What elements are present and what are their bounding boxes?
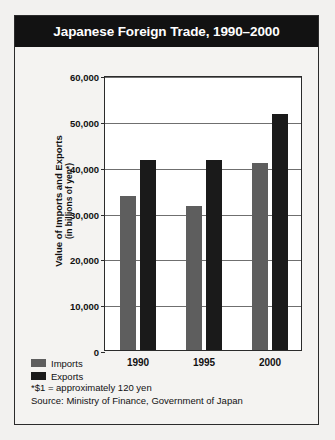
legend-item-exports: Exports [31,370,83,382]
y-axis-tick-label: 0 [94,347,99,358]
x-axis-tick-label-2000: 2000 [259,357,281,368]
bar-imports-1995 [186,206,202,350]
plot-area: 010,00020,00030,00040,00050,00060,000199… [104,76,302,351]
legend-swatch-exports [31,372,46,380]
y-axis-tick-mark [101,306,105,307]
y-axis-tick-label: 50,000 [70,117,99,128]
x-axis-tick-label-1995: 1995 [193,357,215,368]
legend: ImportsExports [31,357,83,383]
y-axis-tick-mark [101,215,105,216]
x-axis-tick-label-1990: 1990 [127,357,149,368]
gridline [105,77,301,78]
bar-imports-2000 [252,163,268,350]
y-axis-tick-label: 30,000 [70,209,99,220]
plot-area-wrapper: 010,00020,00030,00040,00050,00060,000199… [104,76,302,351]
y-axis-tick-label: 60,000 [70,72,99,83]
y-axis-tick-mark [101,260,105,261]
y-axis-tick-label: 40,000 [70,163,99,174]
bar-exports-1995 [206,160,222,350]
y-axis-tick-label: 10,000 [70,301,99,312]
source-note: Source: Ministry of Finance, Government … [31,395,306,408]
figure-canvas: Japanese Foreign Trade, 1990–2000 Value … [0,0,335,440]
y-axis-tick-mark [101,123,105,124]
legend-swatch-imports [31,359,46,367]
y-axis-tick-mark [101,169,105,170]
chart-card: Japanese Foreign Trade, 1990–2000 Value … [14,15,319,425]
legend-item-imports: Imports [31,357,83,369]
page-title: Japanese Foreign Trade, 1990–2000 [15,16,318,47]
bar-exports-1990 [140,160,156,350]
notes-block: *$1 = approximately 120 yen Source: Mini… [31,382,306,407]
y-axis-title: Value of Imports and Exports (in billion… [27,76,53,326]
bar-imports-1990 [120,196,136,350]
footnote: *$1 = approximately 120 yen [31,382,306,395]
bar-exports-2000 [272,114,288,350]
y-axis-tick-label: 20,000 [70,255,99,266]
legend-label-exports: Exports [51,371,83,382]
y-axis-tick-mark [101,352,105,353]
y-axis-title-sub: (in billions of yen*) [64,76,74,326]
y-axis-title-rotated: Value of Imports and Exports (in billion… [53,76,79,326]
title-bar: Japanese Foreign Trade, 1990–2000 [15,16,318,47]
legend-label-imports: Imports [51,358,83,369]
y-axis-title-main: Value of Imports and Exports [53,76,64,326]
y-axis-tick-mark [101,77,105,78]
